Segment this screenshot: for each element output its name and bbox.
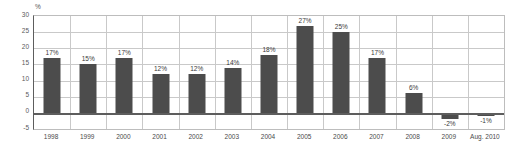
x-axis-tick-label: 2004 — [261, 133, 275, 140]
x-axis-tick-label: 2000 — [116, 133, 130, 140]
bar-value-label: 27% — [299, 17, 312, 24]
x-axis-tick-label: 2009 — [442, 133, 456, 140]
bar — [260, 55, 277, 113]
y-axis-tick-label: 5 — [8, 92, 29, 99]
x-axis-tick-label: 2007 — [369, 133, 383, 140]
bar-value-label: 12% — [190, 65, 203, 72]
bar-value-label: -1% — [480, 117, 492, 124]
x-axis-labels: 1998199920002001200220032004200520062007… — [33, 133, 505, 149]
y-axis-tick-label: 15 — [8, 60, 29, 67]
y-axis-tick-label: 10 — [8, 76, 29, 83]
y-axis-labels: 302520151050-5 — [8, 0, 29, 152]
x-axis-tick-label: 2005 — [297, 133, 311, 140]
bar-value-label: 17% — [118, 49, 131, 56]
bar — [116, 58, 133, 113]
bar-value-label: 17% — [371, 49, 384, 56]
bar-value-label: 15% — [82, 55, 95, 62]
bar — [188, 74, 205, 113]
x-axis-tick-label: 2008 — [405, 133, 419, 140]
x-axis-tick-label: 2001 — [152, 133, 166, 140]
zero-baseline — [34, 113, 504, 115]
plot-area: 17%15%17%12%12%14%18%27%25%17%6%-2%-1% — [33, 15, 505, 130]
bar-value-label: 18% — [262, 46, 275, 53]
y-axis-unit-label: % — [35, 3, 41, 10]
y-axis-tick-label: -5 — [8, 125, 29, 132]
y-axis-tick-label: 20 — [8, 44, 29, 51]
x-axis-tick-label: 2003 — [225, 133, 239, 140]
y-axis-tick-label: 30 — [8, 12, 29, 19]
bar-chart: % 302520151050-5 17%15%17%12%12%14%18%27… — [0, 0, 523, 152]
bar — [152, 74, 169, 113]
bar — [224, 68, 241, 113]
y-axis-tick-label: 0 — [8, 108, 29, 115]
bar-value-label: 25% — [335, 23, 348, 30]
bar-value-label: 17% — [46, 49, 59, 56]
x-axis-tick-label: 1998 — [44, 133, 58, 140]
x-axis-tick-label: 2002 — [188, 133, 202, 140]
bar-value-label: -2% — [444, 120, 456, 127]
bar-value-label: 12% — [154, 65, 167, 72]
x-axis-tick-label: Aug. 2010 — [470, 133, 500, 140]
bar — [333, 32, 350, 113]
x-axis-tick-label: 1999 — [80, 133, 94, 140]
y-axis-tick-label: 25 — [8, 28, 29, 35]
bar — [405, 93, 422, 112]
bar-value-label: 6% — [409, 84, 418, 91]
bar — [80, 64, 97, 112]
bar-value-label: 14% — [226, 59, 239, 66]
bar — [369, 58, 386, 113]
bar — [44, 58, 61, 113]
bar — [297, 26, 314, 113]
x-axis-tick-label: 2006 — [333, 133, 347, 140]
